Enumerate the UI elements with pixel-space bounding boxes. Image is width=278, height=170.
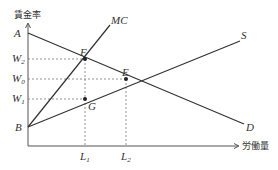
label-s: S — [241, 29, 247, 41]
label-e: E — [121, 66, 129, 78]
label-w1: W1 — [12, 92, 25, 106]
diagram: 賃金率 労働量 A B F E G MC S D W2 W0 W1 L1 L2 — [0, 0, 278, 170]
label-w0: W0 — [12, 72, 25, 86]
label-mc: MC — [110, 14, 128, 26]
label-b: B — [15, 121, 22, 133]
label-g: G — [88, 100, 96, 112]
label-f: F — [79, 46, 87, 58]
y-axis-label: 賃金率 — [14, 9, 41, 20]
label-l1: L1 — [79, 150, 90, 164]
label-d: D — [245, 121, 254, 133]
supply-curve — [28, 41, 240, 127]
label-w2: W2 — [12, 52, 25, 66]
x-axis-label: 労働量 — [242, 140, 269, 151]
label-l2: L2 — [120, 150, 131, 164]
point-g — [83, 97, 87, 101]
demand-curve — [28, 33, 244, 124]
label-a: A — [13, 27, 21, 39]
mc-curve — [28, 25, 110, 127]
